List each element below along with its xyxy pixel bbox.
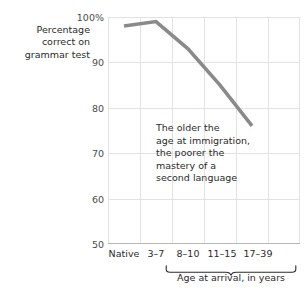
x-axis-brace <box>165 261 297 272</box>
y-tick-label-50: 50 <box>60 239 104 250</box>
chart-annotation: The older the age at immigration, the po… <box>156 122 250 185</box>
x-tick-label-3-7: 3–7 <box>148 248 165 259</box>
x-tick-label-11-15: 11–15 <box>208 248 237 259</box>
y-tick-label-60: 60 <box>60 193 104 204</box>
y-tick-label-80: 80 <box>60 102 104 113</box>
x-tick-label-17-39: 17–39 <box>244 248 273 259</box>
y-tick-label-70: 70 <box>60 148 104 159</box>
y-axis-tick-labels: 100% 90 80 70 60 50 <box>60 17 104 244</box>
y-tick-label-100: 100% <box>60 12 104 23</box>
x-tick-label-8-10: 8–10 <box>177 248 200 259</box>
x-axis-title: Age at arrival, in years <box>165 272 297 283</box>
x-axis-tick-labels: Native 3–7 8–10 11–15 17–39 <box>108 248 300 262</box>
x-tick-label-native: Native <box>109 248 140 259</box>
y-tick-label-90: 90 <box>60 57 104 68</box>
